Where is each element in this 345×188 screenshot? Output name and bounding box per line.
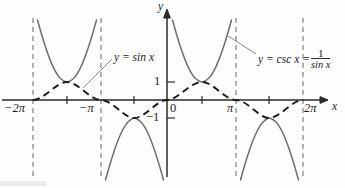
graph-canvas [0, 0, 345, 188]
page-edge-smudge [0, 181, 46, 186]
cosecant-equation-label: y = csc x =1sin x [258, 50, 331, 71]
csc-sine-graph-figure: −2π −π 0 π 2π 1 −1 x y y = sin x y = csc… [0, 0, 345, 188]
x-tick-label-neg-pi: −π [79, 101, 94, 116]
csc-branch-neg-2pi-to-neg-pi [38, 20, 97, 82]
cosecant-fraction-denominator: sin x [311, 58, 331, 70]
x-axis-label: x [332, 100, 337, 112]
csc-branch-0-to-pi [173, 20, 232, 82]
csc-branch-neg-pi-to-0 [106, 118, 164, 180]
cosecant-fraction-numerator: 1 [311, 49, 331, 58]
sine-equation-label: y = sin x [114, 51, 154, 63]
y-tick-label-pos-1: 1 [154, 74, 160, 89]
cosecant-fraction: 1sin x [311, 49, 331, 70]
leader-lines [83, 36, 256, 88]
cosecant-equation-lead: y = csc x = [258, 53, 310, 65]
x-tick-label-2pi: 2π [304, 101, 317, 116]
y-tick-label-neg-1: −1 [146, 110, 159, 125]
sine-label-leader [83, 59, 112, 88]
x-axis-arrowhead [320, 97, 328, 104]
x-tick-label-neg-2pi: −2π [4, 101, 25, 116]
csc-branch-pi-to-2pi [241, 118, 299, 180]
asymptote-lines [33, 18, 303, 179]
origin-label: 0 [170, 101, 176, 116]
y-axis-label: y [158, 0, 163, 12]
y-axis-arrowhead [164, 9, 171, 18]
cosecant-label-leader [228, 36, 256, 54]
axes [2, 9, 328, 177]
x-tick-label-pi: π [227, 101, 233, 116]
